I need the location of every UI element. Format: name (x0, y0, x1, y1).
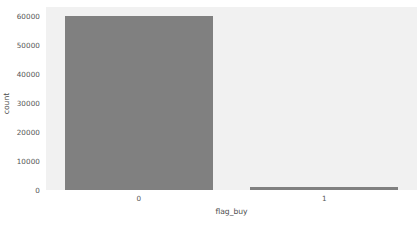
x-tick-label: 0 (136, 194, 141, 203)
plot-area (46, 7, 417, 190)
chart-figure: count 0100002000030000400005000060000 01… (0, 0, 417, 226)
y-tick-label: 40000 (17, 69, 40, 78)
x-tick-label: 1 (322, 194, 327, 203)
y-tick-label: 0 (35, 186, 40, 195)
bar-0 (65, 16, 213, 190)
y-tick-label: 30000 (17, 98, 40, 107)
bar-1 (250, 187, 398, 190)
x-axis-title: flag_buy (46, 207, 417, 216)
y-axis-tick-labels: 0100002000030000400005000060000 (0, 0, 43, 226)
x-axis-tick-labels: 01 (46, 194, 417, 206)
y-tick-label: 20000 (17, 127, 40, 136)
y-tick-label: 60000 (17, 11, 40, 20)
y-tick-label: 10000 (17, 156, 40, 165)
y-tick-label: 50000 (17, 40, 40, 49)
